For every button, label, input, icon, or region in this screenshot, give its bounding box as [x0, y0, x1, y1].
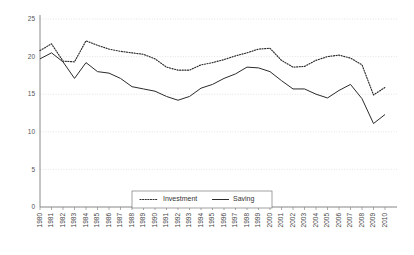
x-tick-label: 1994	[197, 213, 204, 228]
x-tick-label: 1983	[70, 213, 77, 228]
y-tick-label: 10	[28, 128, 36, 135]
y-axis-tick-labels: 0510152025	[28, 15, 36, 210]
x-axis-tick-labels: 1980198119821983198419851986198719881989…	[36, 213, 388, 228]
x-tick-label: 1991	[162, 213, 169, 228]
chart-canvas: 0510152025 19801981198219831984198519861…	[0, 0, 414, 255]
x-tick-label: 1988	[128, 213, 135, 228]
x-tick-label: 1987	[116, 213, 123, 228]
x-tick-label: 2004	[312, 213, 319, 228]
x-tick-label: 1993	[185, 213, 192, 228]
x-tick-label: 2000	[266, 213, 273, 228]
x-tick-label: 1998	[243, 213, 250, 228]
x-tick-label: 2005	[323, 213, 330, 228]
x-tick-label: 2010	[381, 213, 388, 228]
x-tick-label: 1999	[254, 213, 261, 228]
series-line-saving	[40, 53, 385, 124]
x-tick-label: 1990	[151, 213, 158, 228]
legend: InvestmentSaving	[132, 191, 272, 208]
x-tick-label: 2003	[300, 213, 307, 228]
x-tick-label: 1986	[105, 213, 112, 228]
x-tick-label: 1996	[220, 213, 227, 228]
x-tick-label: 1985	[93, 213, 100, 228]
x-tick-label: 2006	[335, 213, 342, 228]
y-tick-label: 20	[28, 53, 36, 60]
y-tick-label: 25	[28, 15, 36, 22]
x-tick-label: 1980	[36, 213, 43, 228]
x-tick-label: 2001	[277, 213, 284, 228]
x-tick-label: 1995	[208, 213, 215, 228]
x-tick-label: 2008	[358, 213, 365, 228]
legend-label-investment: Investment	[163, 195, 197, 202]
x-tick-label: 1992	[174, 213, 181, 228]
y-tick-label: 5	[31, 166, 35, 173]
series-line-investment	[40, 41, 385, 95]
x-tick-label: 1984	[82, 213, 89, 228]
legend-label-saving: Saving	[233, 195, 255, 203]
x-tick-label: 1981	[47, 213, 54, 228]
x-tick-label: 2009	[369, 213, 376, 228]
x-tick-label: 1989	[139, 213, 146, 228]
gridlines-group	[40, 19, 397, 207]
y-tick-label: 15	[28, 90, 36, 97]
x-tick-label: 1997	[231, 213, 238, 228]
x-tick-label: 2002	[289, 213, 296, 228]
x-tick-label: 2007	[346, 213, 353, 228]
x-tick-label: 1982	[59, 213, 66, 228]
line-chart: 0510152025 19801981198219831984198519861…	[0, 0, 414, 255]
y-tick-label: 0	[31, 203, 35, 210]
